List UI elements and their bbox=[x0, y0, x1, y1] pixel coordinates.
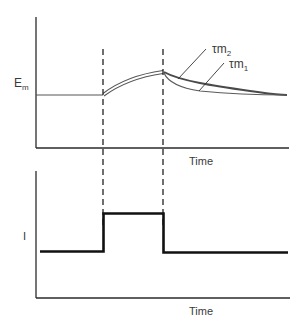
em-axis-label: Em bbox=[14, 76, 29, 92]
current-pulse-trace bbox=[40, 214, 288, 253]
tau-m1-label: τm1 bbox=[229, 57, 249, 73]
tau-m2-curve bbox=[164, 72, 287, 95]
top-time-label: Time bbox=[189, 155, 213, 167]
tau-m2-leader bbox=[178, 49, 206, 79]
diagram-canvas: τm2 τm1 Em Time I Time bbox=[0, 0, 306, 331]
bottom-panel: I Time bbox=[23, 171, 290, 317]
tau-m1-curve bbox=[164, 73, 287, 95]
current-axis-label: I bbox=[23, 230, 26, 242]
bottom-time-label: Time bbox=[189, 305, 213, 317]
tau-m2-label: τm2 bbox=[212, 42, 232, 58]
top-panel: τm2 τm1 Em Time bbox=[14, 17, 289, 167]
